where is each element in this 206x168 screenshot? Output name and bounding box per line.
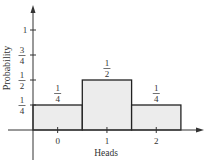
x-tick-label: 2 (154, 136, 159, 146)
bar-value-denominator: 4 (55, 94, 60, 104)
bar-value-numerator: 1 (154, 83, 159, 93)
x-axis-title: Heads (94, 148, 118, 158)
bar-0 (33, 105, 82, 130)
y-tick-label: 1 (23, 25, 28, 35)
bar-value-numerator: 1 (55, 83, 60, 93)
bar-2 (132, 105, 181, 130)
x-tick-label: 0 (55, 136, 60, 146)
bar-value-denominator: 4 (154, 94, 159, 104)
y-tick-denominator: 2 (20, 81, 25, 91)
y-tick-numerator: 3 (20, 45, 25, 55)
y-tick-denominator: 4 (20, 106, 25, 116)
x-tick-label: 1 (105, 136, 110, 146)
bar-value-numerator: 1 (105, 58, 110, 68)
bar-1 (82, 80, 131, 130)
y-tick-numerator: 1 (20, 70, 25, 80)
probability-histogram: 1401211421412341HeadsProbability (0, 0, 206, 168)
y-axis-title: Probability (1, 46, 12, 90)
x-axis-arrow-icon (196, 128, 204, 133)
y-tick-denominator: 4 (20, 56, 25, 66)
bar-value-denominator: 2 (105, 69, 110, 79)
y-axis-arrow-icon (31, 5, 36, 13)
y-tick-numerator: 1 (20, 95, 25, 105)
